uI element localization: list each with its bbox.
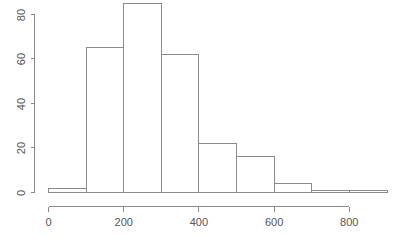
bar-bin-800-900 — [349, 190, 387, 192]
bar-bin-700-800 — [312, 190, 350, 192]
histogram-figure: 0 20 40 60 80 0 200 400 600 800 — [0, 0, 399, 237]
x-axis-group: 0 200 400 600 800 — [45, 207, 358, 229]
bar-bin-100-200 — [86, 48, 124, 193]
bar-bin-0-100 — [49, 188, 87, 192]
bar-bin-600-700 — [274, 184, 312, 193]
y-tick-label-40: 40 — [15, 98, 27, 110]
y-tick-label-60: 60 — [15, 53, 27, 65]
y-tick-label-0: 0 — [15, 190, 27, 196]
y-axis-group: 0 20 40 60 80 — [15, 9, 35, 196]
bars-group — [49, 3, 388, 192]
bar-bin-200-300 — [124, 3, 162, 192]
x-tick-label-0: 0 — [45, 216, 51, 228]
x-tick-label-200: 200 — [115, 216, 133, 228]
bar-bin-500-600 — [237, 157, 275, 193]
bar-bin-300-400 — [161, 55, 199, 193]
y-tick-label-20: 20 — [15, 142, 27, 154]
y-tick-label-80: 80 — [15, 9, 27, 21]
x-tick-label-400: 400 — [190, 216, 208, 228]
x-tick-label-800: 800 — [340, 216, 358, 228]
x-tick-label-600: 600 — [265, 216, 283, 228]
bar-bin-400-500 — [199, 144, 237, 193]
histogram-plot: 0 20 40 60 80 0 200 400 600 800 — [0, 0, 399, 237]
